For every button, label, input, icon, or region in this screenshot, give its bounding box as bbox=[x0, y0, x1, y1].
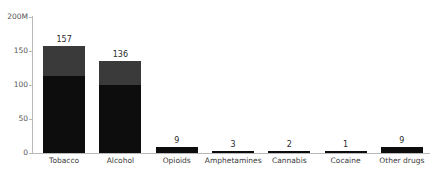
bar-group[interactable] bbox=[156, 147, 198, 153]
bar-stack[interactable] bbox=[381, 147, 423, 153]
bar-stack[interactable] bbox=[43, 46, 85, 153]
y-axis-tick-label: 100 bbox=[0, 81, 28, 89]
bar-stack[interactable] bbox=[268, 151, 310, 153]
x-axis-line bbox=[32, 153, 430, 154]
bar-segment-male[interactable] bbox=[381, 147, 423, 153]
bar-value-label: 157 bbox=[43, 35, 85, 44]
y-axis-tick-mark bbox=[29, 153, 32, 154]
y-axis-line bbox=[32, 16, 33, 154]
bar-value-label: 1 bbox=[325, 140, 367, 149]
bar-segment-male[interactable] bbox=[325, 151, 367, 153]
y-axis-tick-label: 0 bbox=[0, 149, 28, 157]
y-axis-tick-label: 150 bbox=[0, 47, 28, 55]
bar-segment-female[interactable] bbox=[43, 46, 85, 76]
y-axis-tick-mark bbox=[29, 17, 32, 18]
stacked-bar-chart: 200M150100500 FemaleMale157Tobacco136Alc… bbox=[0, 0, 433, 179]
bar-segment-male[interactable] bbox=[212, 151, 254, 153]
y-axis-tick-label: 50 bbox=[0, 115, 28, 123]
y-axis-tick-label: 200M bbox=[0, 13, 28, 21]
bar-segment-female[interactable] bbox=[99, 61, 141, 85]
x-axis-category-label: Cocaine bbox=[317, 156, 373, 165]
bar-segment-male[interactable] bbox=[268, 151, 310, 153]
bar-group[interactable] bbox=[325, 151, 367, 153]
bar-group[interactable] bbox=[212, 151, 254, 153]
x-axis-category-label: Tobacco bbox=[36, 156, 92, 165]
bar-group[interactable] bbox=[268, 151, 310, 153]
bar-stack[interactable] bbox=[212, 151, 254, 153]
x-axis-category-label: Amphetamines bbox=[205, 156, 261, 165]
bar-group[interactable]: FemaleMale bbox=[43, 46, 85, 153]
bar-segment-male[interactable] bbox=[99, 85, 141, 153]
bar-group[interactable] bbox=[99, 61, 141, 153]
x-axis-category-label: Opioids bbox=[149, 156, 205, 165]
bar-stack[interactable] bbox=[156, 147, 198, 153]
bar-value-label: 136 bbox=[99, 50, 141, 59]
x-axis-category-label: Cannabis bbox=[261, 156, 317, 165]
bar-value-label: 3 bbox=[212, 140, 254, 149]
bar-segment-male[interactable] bbox=[156, 147, 198, 153]
bar-segment-male[interactable] bbox=[43, 76, 85, 153]
x-axis-category-label: Other drugs bbox=[374, 156, 430, 165]
bar-group[interactable] bbox=[381, 147, 423, 153]
bar-value-label: 9 bbox=[381, 136, 423, 145]
x-axis-category-label: Alcohol bbox=[92, 156, 148, 165]
y-axis-tick-mark bbox=[29, 119, 32, 120]
bar-value-label: 9 bbox=[156, 136, 198, 145]
bar-stack[interactable] bbox=[325, 151, 367, 153]
bar-stack[interactable] bbox=[99, 61, 141, 153]
y-axis-tick-mark bbox=[29, 51, 32, 52]
bar-value-label: 2 bbox=[268, 140, 310, 149]
y-axis-tick-mark bbox=[29, 85, 32, 86]
